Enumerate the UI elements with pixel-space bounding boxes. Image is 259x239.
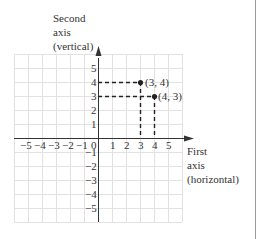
vertical-axis-label-line1: Second (53, 12, 85, 25)
y-tick: 1 (91, 118, 97, 131)
y-tick: −5 (85, 202, 97, 215)
x-tick: 2 (124, 139, 130, 152)
x-tick: −2 (62, 139, 74, 152)
horizontal-axis-label-line1: First (187, 145, 207, 158)
coordinate-plane (0, 0, 259, 239)
y-tick: −3 (85, 174, 97, 187)
point-4-3 (152, 94, 157, 99)
vertical-axis-label-line2: axis (53, 26, 71, 39)
x-tick: 1 (110, 139, 116, 152)
y-tick: −4 (85, 188, 97, 201)
y-tick: 5 (91, 62, 97, 75)
vertical-axis-label-line3: (vertical) (53, 40, 93, 53)
point-label-3-4: (3, 4) (145, 76, 169, 89)
horizontal-axis-label-line3: (horizontal) (187, 173, 239, 186)
point-3-4 (138, 80, 143, 85)
y-tick: 3 (91, 90, 97, 103)
vertical-axis-arrow-icon (96, 46, 102, 56)
x-tick: −3 (48, 139, 60, 152)
x-tick: 4 (152, 139, 158, 152)
y-tick: −1 (85, 146, 97, 159)
x-tick: −5 (20, 139, 32, 152)
horizontal-axis-arrow-icon (184, 136, 194, 142)
x-tick: 5 (166, 139, 172, 152)
horizontal-axis-label-line2: axis (187, 159, 205, 172)
x-tick: −4 (34, 139, 46, 152)
y-tick: 4 (91, 76, 97, 89)
y-tick: 2 (91, 104, 97, 117)
x-tick: 3 (138, 139, 144, 152)
y-tick: −2 (85, 160, 97, 173)
point-label-4-3: (4, 3) (158, 90, 182, 103)
